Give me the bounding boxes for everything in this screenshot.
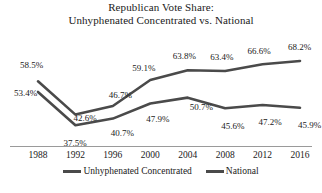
x-axis-tick-label: 1988 bbox=[21, 150, 55, 160]
data-label: 58.5% bbox=[20, 61, 43, 70]
data-label: 59.1% bbox=[132, 64, 155, 73]
x-axis-tick-label: 1996 bbox=[96, 150, 130, 160]
data-label: 42.6% bbox=[73, 114, 96, 123]
data-label: 63.8% bbox=[173, 52, 196, 61]
data-label: 45.9% bbox=[298, 121, 321, 130]
data-label: 45.6% bbox=[221, 122, 244, 131]
x-axis-tick-label: 2012 bbox=[246, 150, 280, 160]
data-label: 53.4% bbox=[14, 89, 37, 98]
chart-legend: Unhyphenated Concentrated National bbox=[0, 166, 322, 176]
legend-item-unhyphenated-concentrated[interactable]: Unhyphenated Concentrated bbox=[63, 166, 191, 176]
data-label: 37.5% bbox=[63, 139, 86, 148]
data-label: 47.9% bbox=[146, 115, 169, 124]
legend-item-national[interactable]: National bbox=[206, 166, 259, 176]
series-line-unhyphenated-concentrated bbox=[38, 61, 300, 115]
data-label: 63.4% bbox=[210, 53, 233, 62]
legend-label: National bbox=[226, 166, 259, 176]
data-label: 47.2% bbox=[259, 118, 282, 127]
legend-label: Unhyphenated Concentrated bbox=[83, 166, 191, 176]
data-label: 40.7% bbox=[111, 129, 134, 138]
legend-swatch-icon bbox=[206, 170, 224, 173]
x-axis-tick-label: 2004 bbox=[171, 150, 205, 160]
x-axis-tick-label: 2008 bbox=[208, 150, 242, 160]
data-label: 68.2% bbox=[288, 43, 311, 52]
data-label: 46.7% bbox=[109, 91, 132, 100]
x-axis-tick-label: 2000 bbox=[133, 150, 167, 160]
x-axis-tick-label: 1992 bbox=[58, 150, 92, 160]
data-label: 50.7% bbox=[190, 103, 213, 112]
legend-swatch-icon bbox=[63, 170, 81, 173]
x-axis-tick-label: 2016 bbox=[283, 150, 317, 160]
chart-container: Republican Vote Share: Unhyphenated Conc… bbox=[0, 0, 322, 193]
plot-area bbox=[0, 0, 322, 193]
data-label: 66.6% bbox=[248, 47, 271, 56]
